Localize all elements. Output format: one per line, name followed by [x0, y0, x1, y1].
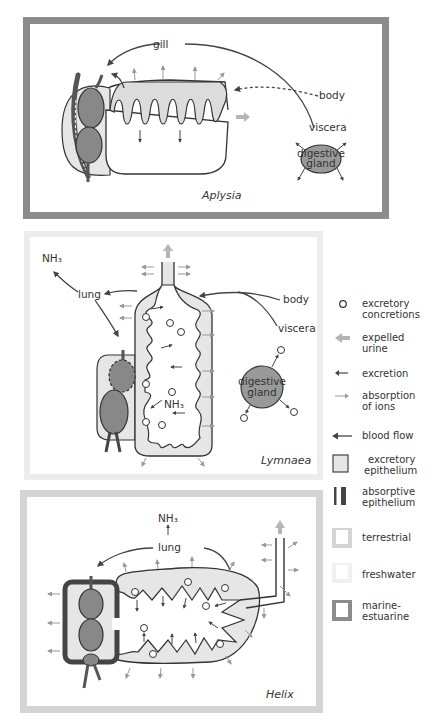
- blood-flow-arrow-body: [235, 87, 318, 96]
- blood-flow-arrow-icon: [332, 430, 354, 452]
- lymnaea-diagram: NH₃ lung body viscera NH₃ digestive glan…: [42, 244, 316, 467]
- label-body: body: [319, 89, 345, 101]
- label-viscera: viscera: [309, 121, 347, 133]
- blood-flow-arrow-lung: [98, 548, 153, 566]
- species-label-aplysia: Aplysia: [201, 189, 242, 202]
- excretion-arrow-icon: [332, 368, 354, 390]
- concretion-icon: [332, 298, 354, 320]
- heart-auricle: [78, 88, 104, 128]
- label-body: body: [283, 293, 309, 305]
- absorptive-epithelium-swatch: [332, 486, 354, 508]
- marine-frame-swatch: [332, 600, 354, 622]
- helix-diagram: NH₃ lung Helix: [48, 512, 298, 701]
- species-label-lymnaea: Lymnaea: [261, 454, 311, 467]
- aplysia-diagram: gill body viscera digestive gland Aplysi…: [62, 38, 347, 202]
- ion-arrow-icon: [332, 390, 354, 412]
- label-nh3: NH₃: [158, 512, 178, 524]
- svg-text:gland: gland: [306, 157, 335, 169]
- label-nh3-top: NH₃: [42, 252, 62, 264]
- label-gill: gill: [153, 38, 168, 50]
- terrestrial-frame-swatch: [332, 528, 354, 550]
- label-nh3-inner: NH₃: [164, 398, 184, 410]
- ion-absorption-arrows: [134, 66, 224, 80]
- label-viscera: viscera: [278, 322, 316, 334]
- urine-arrow-icon: [332, 332, 354, 354]
- heart-ventricle: [76, 127, 102, 163]
- label-lung: lung: [78, 288, 101, 300]
- excretory-epithelium-swatch: [332, 454, 354, 476]
- svg-text:gland: gland: [247, 386, 276, 398]
- label-lung: lung: [158, 541, 181, 553]
- species-label-helix: Helix: [266, 688, 294, 701]
- freshwater-frame-swatch: [332, 563, 354, 585]
